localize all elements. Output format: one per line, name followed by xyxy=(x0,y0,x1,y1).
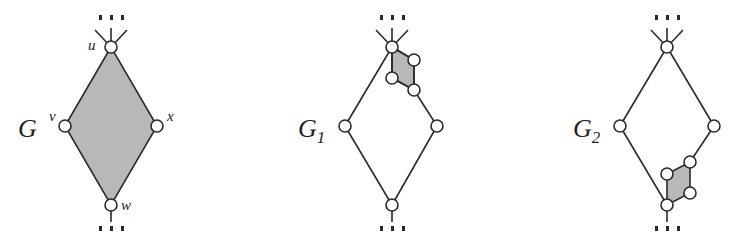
gadget-vertex xyxy=(408,54,420,66)
vertex-label-v: v xyxy=(49,108,56,124)
vertex-label-w: w xyxy=(121,197,131,213)
edge-left-bottom xyxy=(345,126,392,205)
vertex-label-x: x xyxy=(166,108,174,124)
graph-label-g: G xyxy=(18,114,37,143)
bottom-ellipsis xyxy=(99,226,124,231)
graph-label-g1: G1 xyxy=(298,114,325,147)
shaded-region xyxy=(65,47,157,205)
vertex-label-u: u xyxy=(88,37,96,53)
vertex-top xyxy=(386,41,398,53)
gadget-vertex xyxy=(408,84,420,96)
top-ellipsis xyxy=(99,15,124,20)
vertex-top xyxy=(661,41,673,53)
vertex-left xyxy=(614,120,626,132)
edge-top-left xyxy=(620,47,667,126)
vertex-v xyxy=(59,120,71,132)
panel-g: G u v x w xyxy=(18,15,174,231)
vertex-bottom xyxy=(386,199,398,211)
graph-label-g2: G2 xyxy=(573,114,601,147)
vertex-bottom xyxy=(661,199,673,211)
gadget-vertex xyxy=(661,168,673,180)
gadget-vertex xyxy=(684,187,696,199)
gadget-vertex xyxy=(684,156,696,168)
edge-top-left xyxy=(345,47,392,126)
vertex-w xyxy=(105,199,117,211)
vertex-x xyxy=(151,120,163,132)
vertex-right xyxy=(708,120,720,132)
vertex-left xyxy=(339,120,351,132)
edge-bottom-right xyxy=(392,126,437,205)
gadget-vertex xyxy=(386,72,398,84)
edge-left-bottom xyxy=(620,126,667,205)
top-ellipsis xyxy=(380,15,405,20)
bottom-ellipsis xyxy=(380,226,405,231)
edge-top-right xyxy=(667,47,714,126)
top-ellipsis xyxy=(655,15,680,20)
figure-canvas: G u v x w xyxy=(0,0,743,247)
panel-g2: G2 xyxy=(573,15,720,231)
panel-g1: G1 xyxy=(298,15,443,231)
vertex-u xyxy=(105,41,117,53)
bottom-ellipsis xyxy=(655,226,680,231)
vertex-right xyxy=(431,120,443,132)
